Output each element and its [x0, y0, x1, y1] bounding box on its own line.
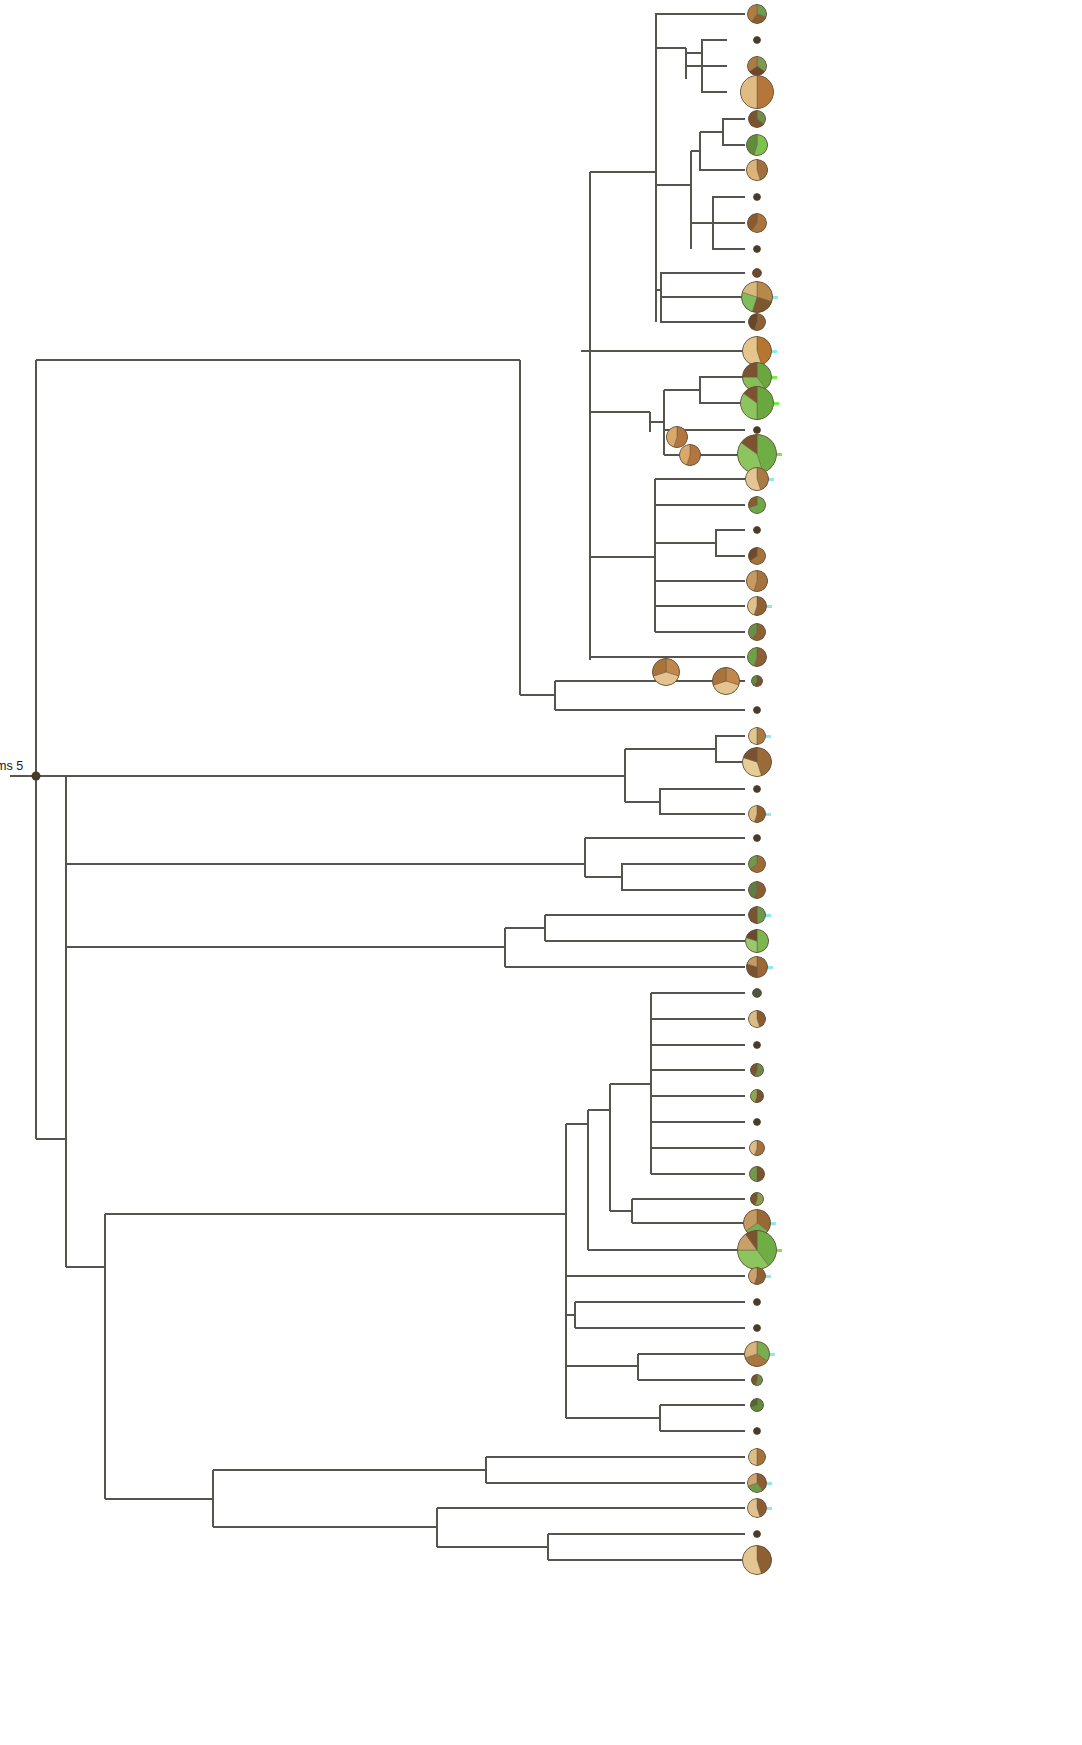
tree-tip[interactable] [753, 29, 766, 51]
tree-tip[interactable] [751, 1369, 768, 1391]
abundance-pie-icon [748, 906, 766, 924]
tree-tip[interactable] [748, 1265, 771, 1287]
tree-internal-node[interactable] [652, 664, 680, 680]
tree-tip[interactable] [748, 853, 771, 875]
tree-tip[interactable] [748, 879, 771, 901]
tree-tip[interactable] [746, 570, 773, 592]
tree-tip[interactable] [749, 1137, 770, 1159]
tip-label [767, 1482, 772, 1485]
tip-label [767, 656, 772, 659]
tree-tip[interactable] [748, 1446, 771, 1468]
tree-tip[interactable] [744, 1343, 775, 1365]
tree-tip[interactable] [753, 778, 766, 800]
abundance-pie-icon [745, 929, 769, 953]
tree-tip[interactable] [748, 108, 771, 130]
tip-label [774, 402, 779, 405]
tip-label [764, 1404, 769, 1407]
abundance-pie-icon [751, 675, 763, 687]
abundance-pie-icon [753, 1041, 761, 1049]
tree-tip[interactable] [747, 1472, 772, 1494]
tip-label [766, 631, 771, 634]
abundance-pie-icon [748, 727, 766, 745]
abundance-pie-icon [752, 988, 762, 998]
tree-tip[interactable] [740, 392, 779, 414]
tree-tip[interactable] [753, 1291, 766, 1313]
tip-label [767, 1507, 772, 1510]
tree-tip[interactable] [746, 134, 773, 156]
abundance-pie-icon [747, 1473, 767, 1493]
abundance-pie-icon [679, 444, 701, 466]
tree-tip[interactable] [748, 545, 771, 567]
tip-label [766, 889, 771, 892]
tip-label [766, 1275, 771, 1278]
tree-tip[interactable] [748, 621, 771, 643]
tree-tip[interactable] [749, 1163, 770, 1185]
tree-tip[interactable] [753, 699, 766, 721]
tree-tip[interactable] [742, 340, 777, 362]
tip-label [767, 222, 772, 225]
abundance-pie-icon [748, 1448, 766, 1466]
abundance-pie-icon [749, 1166, 765, 1182]
tree-tip[interactable] [753, 1034, 766, 1056]
tree-tip[interactable] [752, 982, 767, 1004]
tree-tip[interactable] [750, 1059, 769, 1081]
tree-tip[interactable] [753, 186, 766, 208]
tip-label [766, 863, 771, 866]
tip-label [761, 196, 766, 199]
tip-label [764, 1095, 769, 1098]
tip-label [761, 39, 766, 42]
tree-internal-node[interactable] [666, 429, 688, 445]
abundance-pie-icon [745, 467, 769, 491]
tree-tip[interactable] [750, 1188, 769, 1210]
tree-tip[interactable] [745, 468, 774, 490]
tree-tip[interactable] [741, 286, 778, 308]
abundance-pie-icon [747, 213, 767, 233]
tree-tip[interactable] [737, 1239, 782, 1261]
tree-tip[interactable] [751, 670, 768, 692]
tip-label [769, 940, 774, 943]
tree-tip[interactable] [737, 443, 782, 465]
tree-tip[interactable] [742, 366, 777, 388]
abundance-pie-icon [753, 1118, 761, 1126]
tree-tip[interactable] [750, 1394, 769, 1416]
tree-tip[interactable] [746, 956, 773, 978]
tree-tip[interactable] [753, 1111, 766, 1133]
tree-tip[interactable] [753, 1317, 766, 1339]
tree-tip[interactable] [748, 494, 771, 516]
abundance-pie-icon [737, 1230, 777, 1270]
tree-tip[interactable] [747, 3, 772, 25]
tree-tip[interactable] [748, 803, 771, 825]
tree-tip[interactable] [748, 1008, 771, 1030]
tree-tip[interactable] [748, 904, 771, 926]
abundance-pie-icon [750, 1089, 764, 1103]
tip-label [767, 65, 772, 68]
abundance-pie-icon [652, 658, 680, 686]
tree-tip[interactable] [753, 1523, 766, 1545]
abundance-pie-icon [750, 1398, 764, 1412]
tree-tip[interactable] [747, 212, 772, 234]
tip-label [766, 118, 771, 121]
tree-tip[interactable] [742, 751, 777, 773]
tree-tip[interactable] [747, 55, 772, 77]
tip-label [766, 321, 771, 324]
tree-tip[interactable] [747, 595, 772, 617]
tree-tip[interactable] [753, 519, 766, 541]
tree-tip[interactable] [746, 159, 773, 181]
tree-tip[interactable] [747, 1497, 772, 1519]
tree-tip[interactable] [745, 930, 774, 952]
tree-tip[interactable] [748, 725, 771, 747]
tree-tip[interactable] [748, 311, 771, 333]
tree-tip[interactable] [747, 646, 772, 668]
abundance-pie-icon [748, 1267, 766, 1285]
abundance-pie-icon [748, 1010, 766, 1028]
tree-tip[interactable] [753, 1420, 766, 1442]
tree-tip[interactable] [742, 1549, 777, 1571]
tip-label [777, 1249, 782, 1252]
abundance-pie-icon [740, 386, 774, 420]
root-node-dot [32, 772, 41, 781]
tree-tip[interactable] [753, 238, 766, 260]
tree-tip[interactable] [740, 81, 779, 103]
tree-tip[interactable] [750, 1085, 769, 1107]
tip-label [765, 1147, 770, 1150]
tree-tip[interactable] [753, 827, 766, 849]
